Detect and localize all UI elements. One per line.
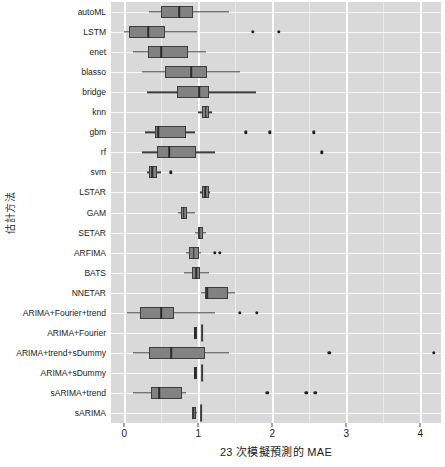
- boxplot-whisker-upper: [193, 11, 229, 12]
- x-tick-label: 0: [122, 428, 128, 439]
- boxplot-box: [140, 307, 174, 319]
- y-tick-label: svm: [90, 167, 106, 177]
- boxplot-whisker-upper: [186, 132, 195, 133]
- boxplot-outlier-point: [251, 30, 254, 33]
- boxplot-median-line: [206, 287, 208, 299]
- grid-line-row: [111, 112, 441, 113]
- boxplot-median-line: [190, 66, 192, 78]
- boxplot-outlier-point: [244, 131, 247, 134]
- boxplot-whisker-upper: [182, 392, 186, 393]
- boxplot-whisker-upper: [157, 172, 161, 173]
- y-tick-label: SETAR: [78, 228, 106, 238]
- grid-line-row: [111, 373, 441, 374]
- boxplot-median-line: [161, 46, 163, 58]
- boxplot-whisker-upper: [174, 312, 215, 313]
- boxplot-whisker-lower: [133, 51, 148, 52]
- boxplot-whisker-upper: [196, 152, 214, 153]
- boxplot-outlier-point: [213, 251, 216, 254]
- y-tick-label: enet: [89, 47, 106, 57]
- boxplot-outlier-point: [305, 391, 308, 394]
- boxplot-whisker-lower: [142, 72, 165, 73]
- boxplot-whisker-lower: [127, 312, 140, 313]
- grid-line-row: [111, 413, 441, 414]
- boxplot-whisker-upper: [196, 412, 197, 413]
- grid-line-row: [111, 253, 441, 254]
- grid-line-row: [111, 273, 441, 274]
- y-axis-tick-labels: autoMLLSTMenetblassobridgeknngbmrfsvmLST…: [14, 0, 106, 425]
- grid-line-row: [111, 233, 441, 234]
- boxplot-outlier-point: [277, 30, 280, 33]
- boxplot-median-line: [193, 407, 195, 419]
- y-tick-label: BATS: [84, 268, 106, 278]
- boxplot-outlier-point: [255, 311, 258, 314]
- plot-panel: [111, 2, 441, 423]
- boxplot-vertical-mark: [200, 404, 202, 421]
- boxplot-box: [149, 347, 205, 359]
- x-tick-label: 4: [418, 428, 424, 439]
- y-tick-label: ARFIMA: [74, 248, 106, 258]
- y-tick-label: knn: [92, 107, 106, 117]
- boxplot-whisker-lower: [145, 132, 155, 133]
- x-tick-mark: [346, 423, 347, 427]
- boxplot-vertical-mark: [201, 364, 203, 381]
- grid-line-row: [111, 192, 441, 193]
- boxplot-whisker-lower: [133, 352, 149, 353]
- boxplot-median-line: [169, 146, 171, 158]
- x-axis: 01234: [111, 423, 441, 445]
- boxplot-outlier-point: [169, 171, 172, 174]
- boxplot-median-line: [193, 247, 195, 259]
- boxplot-outlier-point: [432, 351, 435, 354]
- boxplot-whisker-lower: [133, 392, 151, 393]
- y-tick-label: ARIMA+sDummy: [41, 368, 106, 378]
- boxplot-whisker-upper: [188, 51, 206, 52]
- boxplot-median-line: [161, 307, 163, 319]
- boxplot-median-line: [158, 126, 160, 138]
- boxplot-whisker-upper: [199, 252, 200, 253]
- y-tick-label: blasso: [81, 67, 106, 77]
- boxplot-outlier-point: [218, 251, 221, 254]
- boxplot-outlier-point: [238, 311, 241, 314]
- boxplot-figure: 估計方法 autoMLLSTMenetblassobridgeknngbmrfs…: [0, 0, 445, 467]
- boxplot-whisker-upper: [187, 212, 195, 213]
- boxplot-outlier-point: [265, 391, 268, 394]
- boxplot-whisker-lower: [147, 92, 177, 93]
- boxplot-outlier-point: [320, 151, 323, 154]
- boxplot-median-line: [195, 267, 197, 279]
- boxplot-whisker-lower: [149, 11, 161, 12]
- y-tick-label: ARIMA+trend+sDummy: [16, 348, 106, 358]
- boxplot-whisker-upper: [203, 232, 205, 233]
- y-tick-label: sARIMA: [75, 408, 106, 418]
- boxplot-box: [148, 46, 188, 58]
- boxplot-whisker-upper: [205, 352, 229, 353]
- x-tick-mark: [124, 423, 125, 427]
- boxplot-box: [205, 287, 228, 299]
- x-tick-mark: [420, 423, 421, 427]
- x-axis-title: 23 次模擬預測的 MAE: [111, 443, 441, 459]
- grid-line-row: [111, 333, 441, 334]
- boxplot-median-line: [204, 186, 206, 198]
- boxplot-median-line: [205, 106, 207, 118]
- boxplot-box: [157, 146, 196, 158]
- boxplot-median-line: [170, 347, 172, 359]
- boxplot-median-line: [152, 166, 154, 178]
- grid-line-row: [111, 293, 441, 294]
- boxplot-box: [177, 86, 209, 98]
- boxplot-median-line: [158, 387, 160, 399]
- grid-line-row: [111, 213, 441, 214]
- boxplot-median-line: [178, 6, 180, 18]
- y-tick-label: LSTAR: [79, 187, 106, 197]
- y-tick-label: sARIMA+trend: [50, 388, 106, 398]
- boxplot-median-line: [147, 26, 149, 38]
- boxplot-median-line: [195, 327, 197, 339]
- y-tick-label: bridge: [82, 87, 106, 97]
- boxplot-whisker-upper: [209, 192, 210, 193]
- boxplot-median-line: [183, 207, 185, 219]
- boxplot-median-line: [195, 367, 197, 379]
- x-tick-label: 3: [344, 428, 350, 439]
- boxplot-whisker-upper: [209, 112, 212, 113]
- y-tick-label: ARIMA+Fourier: [47, 328, 106, 338]
- y-tick-label: GAM: [87, 208, 106, 218]
- boxplot-box: [155, 126, 185, 138]
- boxplot-whisker-lower: [142, 152, 157, 153]
- y-tick-label: NNETAR: [72, 288, 106, 298]
